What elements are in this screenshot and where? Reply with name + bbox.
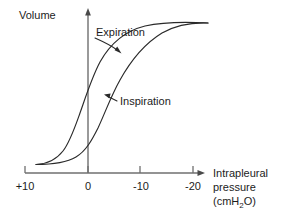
- inspiration-curve: [36, 23, 208, 165]
- x-axis-title-line1: Intrapleural: [213, 167, 268, 179]
- x-axis-units-prefix: (cmH: [213, 195, 239, 207]
- x-axis-units-suffix: O): [244, 195, 256, 207]
- expiration-label: Expiration: [96, 26, 145, 38]
- x-tick-label-plus-10: +10: [16, 180, 35, 192]
- x-axis-title-line2: pressure: [213, 181, 256, 193]
- expiration-curve: [36, 22, 208, 164]
- x-axis: [25, 170, 205, 176]
- x-axis-ticks: [25, 166, 193, 173]
- y-axis-title: Volume: [19, 9, 56, 21]
- x-tick-label-minus-10: -10: [133, 180, 149, 192]
- pressure-volume-curve-figure: Volume Expiration Inspiration +10 0 -10 …: [0, 0, 281, 223]
- inspiration-label: Inspiration: [120, 95, 171, 107]
- x-axis-title-line3: (cmH2O): [213, 195, 256, 210]
- x-tick-label-minus-20: -20: [185, 180, 201, 192]
- x-tick-label-zero: 0: [85, 180, 91, 192]
